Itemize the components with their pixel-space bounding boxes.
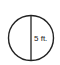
circle-diagram: 5 ft.	[0, 0, 60, 65]
diameter-label: 5 ft.	[34, 34, 47, 43]
